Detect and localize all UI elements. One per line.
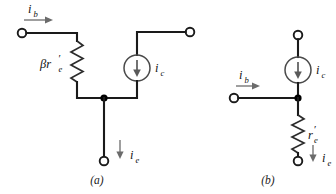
- circuit-b-emitter-current-arrow: [309, 145, 316, 162]
- circuit-a-resistor-subscript: e: [59, 64, 63, 74]
- circuit-a-source-arrow: [133, 60, 141, 77]
- circuit-b-source-arrow-head: [294, 72, 302, 80]
- circuit-a-ib-arrow-head: [45, 17, 53, 24]
- circuit-b-collector-current-label: i c: [316, 63, 326, 80]
- circuit-a-ic-subscript: c: [161, 68, 165, 78]
- circuit-b-ie-symbol: i: [322, 151, 326, 165]
- circuit-a-base-terminal[interactable]: [18, 29, 27, 38]
- circuit-a-collector-terminal[interactable]: [186, 28, 195, 37]
- circuit-a-base-current-arrow: [24, 17, 53, 24]
- circuit-a-ib-symbol: i: [28, 2, 32, 16]
- circuit-a-resistor-zigzag: [71, 41, 83, 82]
- circuit-a-resistor-prime: ′: [59, 52, 61, 64]
- circuit-a-base-wire: [27, 33, 78, 41]
- circuit-a-ie-symbol: i: [130, 148, 134, 162]
- circuit-b-emitter-terminal[interactable]: [294, 157, 303, 166]
- circuit-b-group: i c i b: [230, 31, 332, 187]
- circuit-a-resistor-lower-wire: [77, 82, 104, 98]
- circuit-a-resistor-label: βr e ′: [39, 52, 63, 74]
- circuit-a-ic-symbol: i: [155, 61, 159, 75]
- circuit-b-ic-symbol: i: [316, 63, 320, 77]
- circuit-a-collector-current-label: i c: [155, 61, 165, 78]
- circuit-b-emitter-current-label: i e: [322, 151, 332, 168]
- circuit-b-base-terminal[interactable]: [230, 94, 239, 103]
- circuit-b-resistor-symbol: r: [308, 128, 313, 142]
- circuit-a-source-lower-wire: [104, 81, 137, 98]
- circuit-b-resistor-prime: ′: [314, 123, 316, 135]
- circuit-b-ie-arrow-head: [309, 155, 316, 163]
- circuit-a-group: βr e ′ i b: [18, 2, 195, 187]
- circuit-a-emitter-terminal[interactable]: [100, 157, 109, 166]
- circuit-b-ib-arrow-head: [252, 83, 260, 90]
- circuit-b-resistor-label: r e ′: [308, 123, 318, 145]
- circuit-a-resistor-symbol: βr: [39, 57, 51, 71]
- circuit-b-ib-symbol: i: [239, 68, 243, 82]
- circuit-b-ic-subscript: c: [322, 70, 326, 80]
- circuit-b-resistor-subscript: e: [314, 135, 318, 145]
- circuit-a-base-current-label: i b: [28, 2, 39, 19]
- circuit-a-ib-subscript: b: [34, 9, 39, 19]
- circuit-a-caption: (a): [90, 174, 104, 187]
- circuit-b-ib-subscript: b: [245, 75, 250, 85]
- circuit-b-resistor-zigzag: [292, 115, 304, 153]
- circuit-b-ie-subscript: e: [328, 158, 332, 168]
- circuit-b-base-current-label: i b: [239, 68, 250, 85]
- figure-root: βr e ′ i b: [0, 0, 336, 194]
- circuit-a-collector-wire: [137, 32, 186, 55]
- circuit-a-ie-subscript: e: [136, 155, 140, 165]
- circuit-b-collector-terminal[interactable]: [294, 31, 303, 40]
- circuit-b-caption: (b): [261, 174, 275, 187]
- circuit-diagram-svg: βr e ′ i b: [0, 0, 336, 194]
- circuit-b-source-arrow: [294, 62, 302, 79]
- circuit-a-emitter-current-label: i e: [130, 148, 140, 165]
- circuit-a-ie-arrow-head: [116, 152, 123, 160]
- circuit-a-emitter-current-arrow: [116, 140, 123, 159]
- circuit-a-source-arrow-head: [133, 70, 141, 78]
